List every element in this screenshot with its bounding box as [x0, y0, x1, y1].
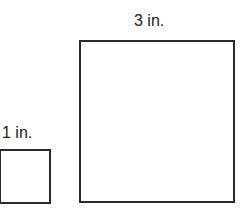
large-square: [79, 40, 235, 203]
diagram-canvas: 3 in. 1 in.: [0, 0, 247, 216]
small-square-label: 1 in.: [2, 124, 32, 142]
small-square: [0, 149, 51, 204]
large-square-label: 3 in.: [134, 12, 164, 30]
